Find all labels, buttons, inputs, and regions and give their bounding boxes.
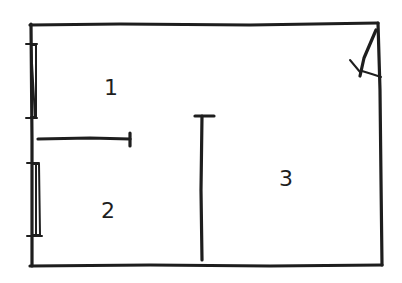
door-swing-icon xyxy=(350,30,381,77)
window-room-2 xyxy=(27,163,42,236)
interior-wall-vertical xyxy=(195,116,214,260)
room-2-label: 2 xyxy=(101,198,115,223)
floor-plan-sketch: 1 2 3 xyxy=(0,0,402,283)
outer-walls xyxy=(30,23,382,266)
room-1-label: 1 xyxy=(104,75,118,100)
top-wall xyxy=(30,23,378,25)
bottom-wall xyxy=(30,265,382,266)
interior-wall-horizontal xyxy=(38,133,130,146)
room-3-label: 3 xyxy=(279,166,293,191)
right-wall xyxy=(378,23,382,265)
